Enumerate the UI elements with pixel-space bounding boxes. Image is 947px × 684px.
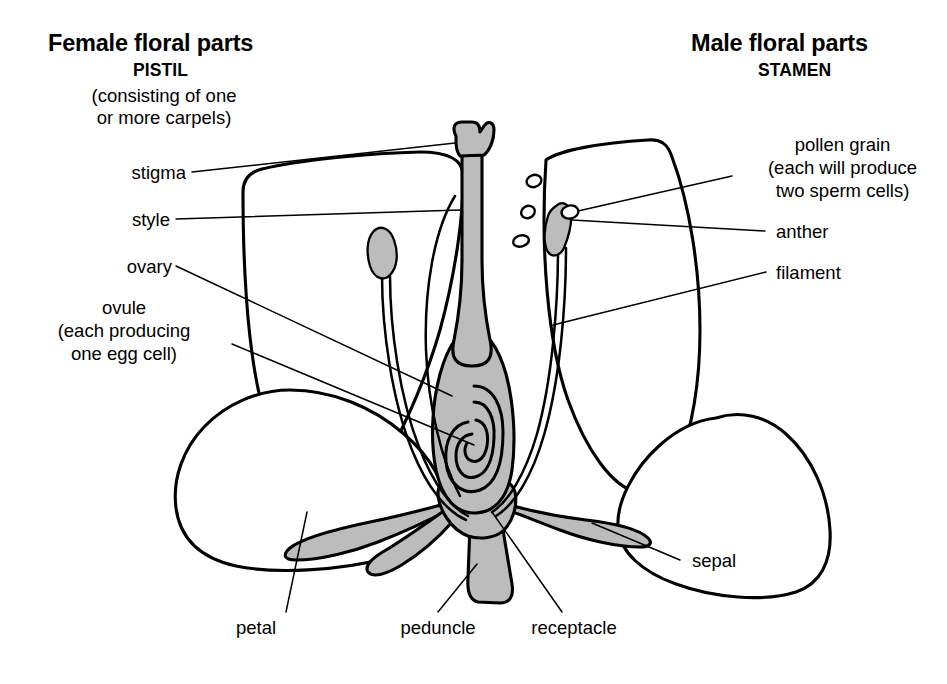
male-header-title: Male floral parts — [691, 30, 868, 57]
flower-diagram: Female floral parts PISTIL (consisting o… — [0, 0, 947, 684]
female-header-note-line2: or more carpels) — [40, 106, 288, 129]
label-receptacle: receptacle — [484, 617, 664, 640]
pollen-grain-icon — [512, 234, 530, 249]
female-header-subtitle: PISTIL — [133, 60, 188, 81]
label-ovule-line2: (each producing — [24, 319, 224, 342]
pollen-grain-icon — [525, 173, 543, 189]
label-pollen-grain-line1: pollen grain — [738, 133, 947, 156]
label-pollen-grain-line3: two sperm cells) — [738, 179, 947, 202]
label-ovary: ovary — [0, 256, 172, 279]
label-pollen-grain-line2: (each will produce — [738, 156, 947, 179]
label-filament: filament — [776, 262, 841, 285]
label-petal: petal — [196, 617, 316, 640]
label-stigma: stigma — [0, 162, 186, 185]
label-ovule-line3: one egg cell) — [24, 342, 224, 365]
label-style: style — [0, 209, 170, 232]
female-header-title: Female floral parts — [48, 30, 253, 57]
label-ovule-line1: ovule — [24, 296, 224, 319]
female-header-note-line1: (consisting of one — [40, 84, 288, 107]
label-sepal: sepal — [692, 550, 736, 573]
anther-left — [368, 228, 397, 279]
label-anther: anther — [776, 221, 828, 244]
male-header-subtitle: STAMEN — [758, 60, 831, 81]
stigma — [454, 122, 494, 156]
pollen-grain-icon — [519, 204, 537, 221]
